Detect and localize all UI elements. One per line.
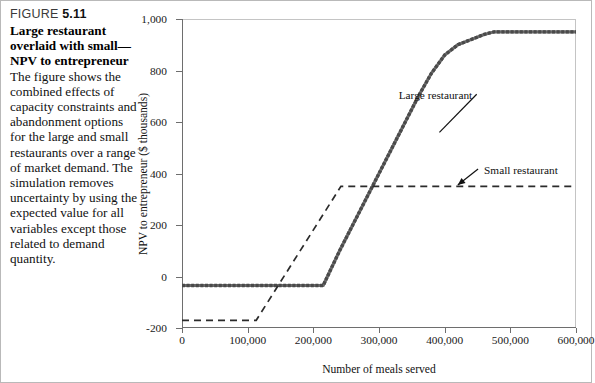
y-tick-label: 800 [150,65,167,77]
y-tick-label: 200 [150,219,167,231]
x-tick [445,328,446,333]
y-tick-label: 1,000 [141,13,167,25]
x-tick [379,328,380,333]
x-tick [576,328,577,333]
y-axis-tick-labels: -20002004006008001,000 [1,19,177,328]
x-tick [313,328,314,333]
x-tick-label: 0 [179,334,185,346]
x-tick [182,328,183,333]
x-tick [510,328,511,333]
x-tick-label: 200,000 [295,334,332,346]
plot-area: Large restaurantSmall restaurant [182,19,576,328]
x-tick [248,328,249,333]
series-annotation-label: Large restaurant [399,89,473,101]
series-line [182,186,576,320]
x-tick-label: 500,000 [492,334,529,346]
x-tick-label: 400,000 [426,334,463,346]
x-tick-label: 100,000 [229,334,266,346]
series-line [182,32,576,286]
y-tick-label: 400 [150,168,167,180]
x-tick-label: 600,000 [557,334,594,346]
series-annotation-label: Small restaurant [484,164,558,176]
y-tick-label: 600 [150,116,167,128]
y-tick-label: -200 [146,322,167,334]
x-tick-label: 300,000 [360,334,397,346]
x-axis-title: Number of meals served [182,363,576,376]
series-markers [182,32,576,286]
y-tick-label: 0 [161,271,167,283]
annotation-arrow [458,169,478,185]
